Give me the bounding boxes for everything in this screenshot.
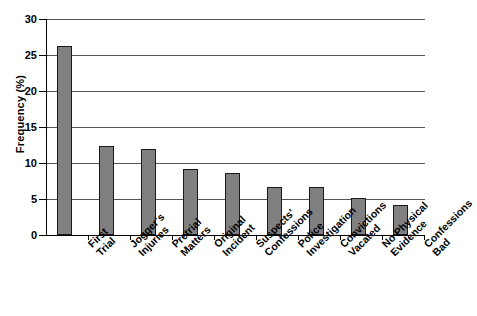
y-axis-tick-label: 10 — [25, 157, 37, 169]
x-axis-label-line: Jogger's — [128, 242, 136, 250]
y-axis-tick — [39, 163, 47, 164]
y-axis-tick — [39, 19, 47, 20]
gridline — [47, 127, 425, 128]
x-axis-label-line: Injuries — [136, 250, 144, 258]
x-axis-label-line: Bad — [430, 250, 438, 258]
y-axis-tick-label: 20 — [25, 85, 37, 97]
x-axis-label-line: Trial — [94, 250, 102, 258]
x-axis-label-line: Pretrial — [170, 242, 178, 250]
x-axis-label-line: Confessions — [262, 250, 270, 258]
y-axis-tick — [39, 199, 47, 200]
y-axis-tick — [39, 127, 47, 128]
x-axis-label-9: ConfessionsBad — [422, 242, 438, 258]
x-axis-label-line: Convictions — [338, 242, 346, 250]
x-axis-label-line: No Physical — [380, 242, 388, 250]
x-axis-label-line: Evidence — [388, 250, 396, 258]
x-axis-label-4: OriginalIncident — [212, 242, 228, 258]
x-axis-label-8: No PhysicalEvidence — [380, 242, 396, 258]
x-axis-label-5: Suspects'Confessions — [254, 242, 270, 258]
x-axis-label-2: Jogger'sInjuries — [128, 242, 144, 258]
y-axis-tick-label: 15 — [25, 121, 37, 133]
y-axis-tick-label: 30 — [25, 13, 37, 25]
x-axis-label-7: ConvictionsVacated — [338, 242, 354, 258]
x-axis-label-3: PretrialMatters — [170, 242, 186, 258]
bar-2 — [99, 146, 114, 235]
y-axis-tick-label: 5 — [31, 193, 37, 205]
x-axis-label-line: Vacated — [346, 250, 354, 258]
gridline — [47, 19, 425, 20]
y-axis-tick — [39, 55, 47, 56]
x-axis-label-line: First — [86, 242, 94, 250]
x-axis-label-6: PoliceInvestigation — [296, 242, 312, 258]
x-axis-label-line: Confessions — [422, 242, 430, 250]
gridline — [47, 91, 425, 92]
y-axis-tick-label: 25 — [25, 49, 37, 61]
bar-1 — [57, 46, 72, 235]
plot-area: 051015202530 — [46, 19, 424, 235]
x-axis-label-line: Matters — [178, 250, 186, 258]
x-axis-label-line: Suspects' — [254, 242, 262, 250]
x-axis-label-line: Investigation — [304, 250, 312, 258]
x-axis-label-line: Police — [296, 242, 304, 250]
gridline — [47, 55, 425, 56]
x-axis-label-1: FirstTrial — [86, 242, 102, 258]
y-axis-tick-label: 0 — [31, 229, 37, 241]
x-axis-label-line: Original — [212, 242, 220, 250]
y-axis-tick — [39, 91, 47, 92]
x-axis-label-line: Incident — [220, 250, 228, 258]
